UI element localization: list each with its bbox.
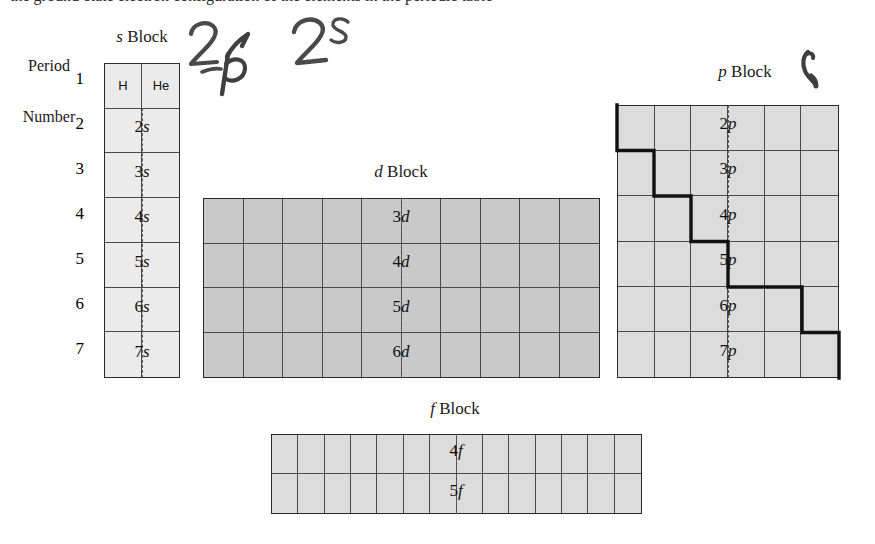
d-cell-r2c6[interactable]: [402, 244, 442, 289]
d-cell-r4c9[interactable]: [520, 333, 560, 378]
f-cell-r2c8[interactable]: [457, 474, 483, 513]
d-cell-r4c5[interactable]: [362, 333, 402, 378]
p-cell-r3c5[interactable]: [765, 196, 802, 241]
f-cell-r2c7[interactable]: [430, 474, 456, 513]
f-cell-r1c12[interactable]: [562, 435, 588, 474]
p-cell-r2c3[interactable]: [691, 151, 728, 196]
d-cell-r1c1[interactable]: [204, 199, 244, 244]
s-cell-r3c2[interactable]: [142, 153, 179, 198]
d-cell-r4c1[interactable]: [204, 333, 244, 378]
d-cell-r1c3[interactable]: [283, 199, 323, 244]
p-cell-r5c3[interactable]: [691, 287, 728, 332]
p-cell-r3c6[interactable]: [801, 196, 838, 241]
d-cell-r2c9[interactable]: [520, 244, 560, 289]
d-cell-r1c2[interactable]: [244, 199, 284, 244]
d-cell-r3c7[interactable]: [441, 288, 481, 333]
d-cell-r4c10[interactable]: [560, 333, 600, 378]
p-cell-r5c6[interactable]: [801, 287, 838, 332]
s-cell-r2c1[interactable]: [105, 109, 142, 154]
f-cell-r2c4[interactable]: [351, 474, 377, 513]
f-cell-r1c1[interactable]: [272, 435, 298, 474]
p-cell-r1c4[interactable]: [728, 106, 765, 151]
p-cell-r6c3[interactable]: [691, 332, 728, 377]
d-cell-r3c3[interactable]: [283, 288, 323, 333]
f-cell-r1c7[interactable]: [430, 435, 456, 474]
p-cell-r1c1[interactable]: [618, 106, 655, 151]
p-cell-r6c6[interactable]: [801, 332, 838, 377]
f-cell-r2c3[interactable]: [325, 474, 351, 513]
d-cell-r1c10[interactable]: [560, 199, 600, 244]
p-cell-r4c3[interactable]: [691, 242, 728, 287]
f-cell-r2c12[interactable]: [562, 474, 588, 513]
f-cell-r2c13[interactable]: [588, 474, 614, 513]
f-cell-r1c2[interactable]: [298, 435, 324, 474]
d-cell-r1c7[interactable]: [441, 199, 481, 244]
d-cell-r2c4[interactable]: [323, 244, 363, 289]
s-cell-r4c1[interactable]: [105, 198, 142, 243]
s-cell-r6c1[interactable]: [105, 288, 142, 333]
f-cell-r1c10[interactable]: [509, 435, 535, 474]
p-cell-r1c5[interactable]: [765, 106, 802, 151]
p-cell-r6c5[interactable]: [765, 332, 802, 377]
d-cell-r1c5[interactable]: [362, 199, 402, 244]
f-cell-r1c5[interactable]: [377, 435, 403, 474]
f-cell-r2c2[interactable]: [298, 474, 324, 513]
p-cell-r2c5[interactable]: [765, 151, 802, 196]
f-cell-r2c11[interactable]: [536, 474, 562, 513]
p-cell-r3c4[interactable]: [728, 196, 765, 241]
p-cell-r3c3[interactable]: [691, 196, 728, 241]
p-cell-r2c4[interactable]: [728, 151, 765, 196]
s-cell-r7c1[interactable]: [105, 332, 142, 377]
d-cell-r3c8[interactable]: [481, 288, 521, 333]
f-cell-r1c4[interactable]: [351, 435, 377, 474]
p-cell-r3c2[interactable]: [655, 196, 692, 241]
d-cell-r1c6[interactable]: [402, 199, 442, 244]
d-cell-r1c4[interactable]: [323, 199, 363, 244]
f-cell-r2c1[interactable]: [272, 474, 298, 513]
s-cell-r4c2[interactable]: [142, 198, 179, 243]
d-cell-r2c7[interactable]: [441, 244, 481, 289]
d-cell-r3c10[interactable]: [560, 288, 600, 333]
d-cell-r4c2[interactable]: [244, 333, 284, 378]
p-cell-r4c5[interactable]: [765, 242, 802, 287]
f-cell-r1c6[interactable]: [404, 435, 430, 474]
p-cell-r3c1[interactable]: [618, 196, 655, 241]
f-cell-r1c9[interactable]: [483, 435, 509, 474]
d-cell-r2c1[interactable]: [204, 244, 244, 289]
d-cell-r3c1[interactable]: [204, 288, 244, 333]
p-cell-r2c6[interactable]: [801, 151, 838, 196]
d-cell-r4c4[interactable]: [323, 333, 363, 378]
s-cell-r2c2[interactable]: [142, 109, 179, 154]
d-cell-r4c7[interactable]: [441, 333, 481, 378]
p-cell-r4c4[interactable]: [728, 242, 765, 287]
p-cell-r2c2[interactable]: [655, 151, 692, 196]
f-cell-r2c14[interactable]: [615, 474, 641, 513]
s-cell-r6c2[interactable]: [142, 288, 179, 333]
p-cell-r6c2[interactable]: [655, 332, 692, 377]
p-cell-r4c1[interactable]: [618, 242, 655, 287]
p-cell-r5c2[interactable]: [655, 287, 692, 332]
p-cell-r1c2[interactable]: [655, 106, 692, 151]
p-cell-r1c6[interactable]: [801, 106, 838, 151]
f-cell-r2c5[interactable]: [377, 474, 403, 513]
p-cell-r6c4[interactable]: [728, 332, 765, 377]
p-cell-r4c2[interactable]: [655, 242, 692, 287]
d-cell-r2c8[interactable]: [481, 244, 521, 289]
p-cell-r5c4[interactable]: [728, 287, 765, 332]
f-cell-r1c11[interactable]: [536, 435, 562, 474]
s-cell-r5c2[interactable]: [142, 243, 179, 288]
p-cell-r2c1[interactable]: [618, 151, 655, 196]
f-cell-r1c13[interactable]: [588, 435, 614, 474]
d-cell-r3c5[interactable]: [362, 288, 402, 333]
f-cell-r2c6[interactable]: [404, 474, 430, 513]
d-cell-r4c8[interactable]: [481, 333, 521, 378]
d-cell-r1c9[interactable]: [520, 199, 560, 244]
d-cell-r3c4[interactable]: [323, 288, 363, 333]
s-cell-r5c1[interactable]: [105, 243, 142, 288]
f-cell-r1c14[interactable]: [615, 435, 641, 474]
p-cell-r5c1[interactable]: [618, 287, 655, 332]
f-cell-r1c8[interactable]: [457, 435, 483, 474]
d-cell-r3c2[interactable]: [244, 288, 284, 333]
s-cell-r7c2[interactable]: [142, 332, 179, 377]
d-cell-r4c3[interactable]: [283, 333, 323, 378]
